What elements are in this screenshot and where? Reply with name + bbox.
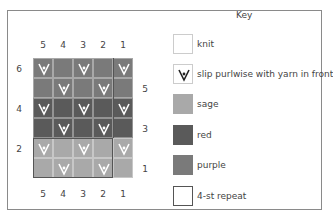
chart-cell [73,98,93,118]
chart-cell [73,158,93,178]
slip-purlwise-icon [117,62,131,76]
slip-purlwise-icon [117,142,131,156]
column-number: 5 [33,189,53,199]
key-label: slip purlwise with yarn in front [197,69,333,79]
chart-cell [73,78,93,98]
slip-purlwise-icon [57,122,71,136]
column-number: 3 [73,40,93,50]
chart-cell [93,118,113,138]
red-swatch [173,125,193,145]
chart-cell [93,58,113,78]
row-label-left: 4 [9,104,29,114]
slip-purlwise-icon [97,82,111,96]
slip-purlwise-icon [37,62,51,76]
row-label-right: 1 [135,164,155,174]
column-number: 3 [73,189,93,199]
slip-purlwise-icon [117,102,131,116]
chart-cell [53,58,73,78]
chart-cell [33,98,53,118]
row-label-right: 5 [135,84,155,94]
key-label: red [197,130,212,140]
column-number: 5 [33,40,53,50]
key-label: purple [197,160,226,170]
key-item-knit: knit [173,34,214,54]
chart-cell [33,118,53,138]
slip-purlwise-icon [37,142,51,156]
slip-purlwise-icon [57,162,71,176]
key-label: knit [197,39,214,49]
column-number: 1 [113,189,133,199]
key-item-red: red [173,125,212,145]
key-label: sage [197,99,218,109]
column-number: 4 [53,40,73,50]
chart-cell [93,158,113,178]
column-number: 1 [113,40,133,50]
chart-cell [113,158,133,178]
knitting-chart-grid [33,58,133,178]
row-label-left: 2 [9,144,29,154]
slip-purlwise-icon [97,162,111,176]
key-label: 4-st repeat [197,191,246,201]
slip-purlwise-icon [77,102,91,116]
chart-cell [93,98,113,118]
chart-cell [73,138,93,158]
chart-cell [113,58,133,78]
chart-cell [113,98,133,118]
chart-cell [53,158,73,178]
key-item-purple: purple [173,155,226,175]
slip-purlwise-icon [173,64,193,84]
column-number: 2 [93,40,113,50]
key-item-sage: sage [173,94,218,114]
purple-swatch [173,155,193,175]
column-number: 4 [53,189,73,199]
slip-purlwise-icon [97,122,111,136]
key-title: Key [236,10,252,20]
row-label-right: 3 [135,124,155,134]
chart-cell [73,118,93,138]
chart-cell [113,118,133,138]
slip-purlwise-icon [57,82,71,96]
slip-purlwise-icon [37,102,51,116]
sage-swatch [173,94,193,114]
repeat-swatch [173,186,193,206]
knit-swatch [173,34,193,54]
chart-cell [33,78,53,98]
slip-purlwise-icon [77,62,91,76]
slip-purlwise-icon [77,142,91,156]
column-number: 2 [93,189,113,199]
chart-cell [33,138,53,158]
chart-cell [53,118,73,138]
row-label-left: 6 [9,64,29,74]
chart-cell [73,58,93,78]
chart-cell [113,138,133,158]
chart-cell [113,78,133,98]
key-item-slip: slip purlwise with yarn in front [173,64,333,84]
chart-cell [53,98,73,118]
key-item-repeat: 4-st repeat [173,186,246,206]
chart-cell [93,78,113,98]
chart-cell [53,78,73,98]
chart-cell [33,58,53,78]
chart-cell [53,138,73,158]
chart-cell [93,138,113,158]
chart-cell [33,158,53,178]
